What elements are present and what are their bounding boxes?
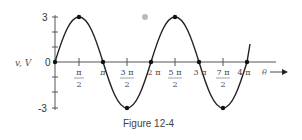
svg-text:2: 2 [76, 80, 81, 89]
svg-text:2: 2 [220, 80, 225, 89]
svg-text:π: π [76, 68, 81, 77]
y-tick-label-neg3: -3 [38, 103, 47, 114]
svg-text:5 π: 5 π [169, 68, 182, 77]
x-tick-label-2pi: 2 π [148, 68, 161, 77]
x-tick-label-4pi: 4 π [238, 68, 251, 77]
x-tick-label-3pi: 3 π [194, 68, 207, 77]
y-tick-label-3: 3 [42, 12, 48, 23]
x-tick-label-7pi-over-2: 7 π 2 [216, 68, 230, 89]
svg-text:2: 2 [124, 80, 129, 89]
figure-caption: Figure 12-4 [123, 118, 175, 129]
svg-text:3 π: 3 π [121, 68, 134, 77]
sine-wave-figure: 3 0 -3 v, V π 2 π 3 π 2 2 π 5 π 2 3 π 7 … [0, 0, 302, 140]
x-tick-label-pi-over-2: π 2 [74, 68, 84, 89]
arrow-right-icon [282, 69, 288, 75]
artifact-dot [142, 14, 148, 20]
svg-text:7 π: 7 π [217, 68, 230, 77]
x-axis-label: θ [262, 68, 267, 77]
svg-text:2: 2 [172, 80, 177, 89]
x-tick-label-3pi-over-2: 3 π 2 [120, 68, 134, 89]
y-tick-label-0: 0 [45, 57, 51, 68]
x-tick-label-5pi-over-2: 5 π 2 [168, 68, 182, 89]
x-tick-label-pi: π [99, 68, 106, 77]
y-axis-label: v, V [15, 58, 33, 68]
